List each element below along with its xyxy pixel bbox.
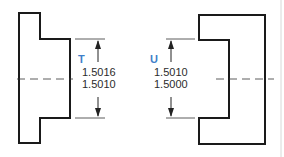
part-u: U 1.5010 1.5000 — [150, 15, 274, 144]
part-t: T 1.5016 1.5010 — [17, 13, 116, 143]
part-t-label: T — [78, 53, 85, 65]
tolerance-diagram: T 1.5016 1.5010 U 1.5010 1.5000 — [0, 0, 284, 157]
arrow-up-icon — [95, 40, 101, 49]
arrow-down-icon — [168, 108, 174, 117]
part-u-label: U — [150, 53, 158, 65]
part-t-dimension-lower: 1.5010 — [82, 78, 116, 90]
part-t-dimension-upper: 1.5016 — [82, 66, 116, 78]
arrow-up-icon — [168, 40, 174, 49]
arrow-down-icon — [95, 108, 101, 117]
part-u-dimension-lower: 1.5000 — [154, 78, 188, 90]
part-u-outline — [199, 15, 265, 144]
part-u-dimension-upper: 1.5010 — [154, 66, 188, 78]
part-t-outline — [19, 13, 70, 143]
